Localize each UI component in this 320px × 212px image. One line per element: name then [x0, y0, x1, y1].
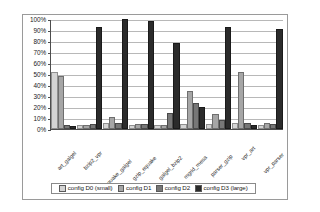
x-tick-label: art_galgel: [56, 150, 77, 171]
legend-swatch-icon: [59, 185, 66, 192]
legend-label: config D3 (large): [204, 185, 248, 192]
bar[interactable]: [148, 21, 154, 129]
bars-layer: [51, 20, 283, 129]
x-tick-label: mgrid_mesa: [183, 154, 209, 180]
plot-area: 100%90%80%70%60%50%40%30%20%10%0%: [50, 20, 283, 130]
y-tick-label: 100%: [30, 17, 46, 23]
bar[interactable]: [58, 76, 64, 129]
legend-swatch-icon: [118, 185, 125, 192]
bar[interactable]: [251, 125, 257, 129]
bar-group: [257, 20, 283, 129]
bar-group: [128, 20, 154, 129]
legend-swatch-icon: [156, 185, 163, 192]
x-tick-label: gzip_equake: [131, 155, 157, 181]
bar[interactable]: [70, 126, 76, 129]
bar[interactable]: [225, 27, 231, 129]
legend-swatch-icon: [195, 185, 202, 192]
bar[interactable]: [173, 43, 179, 129]
y-tick-label: 90%: [34, 28, 47, 34]
bar-group: [180, 20, 206, 129]
y-tick-label: 40%: [34, 83, 47, 89]
bar[interactable]: [96, 27, 102, 129]
x-tick-label: parser_gzip: [209, 153, 234, 178]
x-tick-label: galgel_bzip2: [157, 155, 183, 181]
bar-group: [77, 20, 103, 129]
y-tick-label: 70%: [34, 50, 47, 56]
y-tick-label: 30%: [34, 94, 47, 100]
bar-group: [154, 20, 180, 129]
y-tick-label: 60%: [34, 61, 47, 67]
y-tick-label: 80%: [34, 39, 47, 45]
x-tick-label: vpr_art: [240, 145, 256, 161]
x-axis: art_galgelbzip2_vprequake_galgelgzip_equ…: [50, 131, 283, 179]
bar-group: [231, 20, 257, 129]
x-tick-label: vpr_parser: [262, 152, 285, 175]
legend-item[interactable]: config D0 (small): [59, 185, 112, 192]
chart-legend: config D0 (small)config D1config D2confi…: [51, 183, 256, 195]
bar-group: [206, 20, 232, 129]
bar[interactable]: [276, 29, 282, 129]
y-tick-label: 10%: [34, 116, 47, 122]
bar[interactable]: [238, 72, 244, 129]
bar-group: [51, 20, 77, 129]
legend-label: config D1: [126, 185, 151, 192]
y-tick-label: 50%: [34, 72, 47, 78]
legend-item[interactable]: config D1: [118, 185, 152, 192]
y-tick-label: 0%: [37, 127, 46, 133]
legend-item[interactable]: config D2: [156, 185, 190, 192]
legend-label: config D2: [165, 185, 190, 192]
x-tick-label: bzip2_vpr: [82, 150, 103, 171]
y-tick-label: 20%: [34, 105, 47, 111]
chart-frame: 100%90%80%70%60%50%40%30%20%10%0% art_ga…: [22, 14, 288, 200]
bar[interactable]: [122, 19, 128, 129]
bar-group: [103, 20, 129, 129]
bar[interactable]: [199, 107, 205, 129]
legend-item[interactable]: config D3 (large): [195, 185, 248, 192]
legend-label: config D0 (small): [68, 185, 113, 192]
